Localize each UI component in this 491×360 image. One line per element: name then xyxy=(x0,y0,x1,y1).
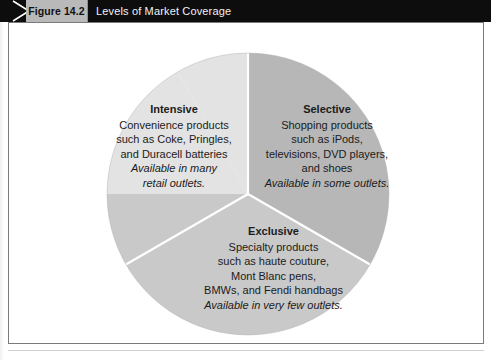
slice-line-selective-2: such as iPods, xyxy=(252,132,402,147)
slice-title-selective: Selective xyxy=(252,102,402,117)
figure-title: Levels of Market Coverage xyxy=(96,0,231,22)
slice-label-intensive: Intensive Convenience products such as C… xyxy=(104,102,244,190)
slice-line-selective-4: and shoes xyxy=(252,161,402,176)
slice-line-selective-1: Shopping products xyxy=(252,118,402,133)
slice-label-selective: Selective Shopping products such as iPod… xyxy=(252,102,402,190)
slice-title-exclusive: Exclusive xyxy=(186,224,361,239)
slice-line-intensive-2: such as Coke, Pringles, xyxy=(104,132,244,147)
slice-line-intensive-1: Convenience products xyxy=(104,118,244,133)
slice-note-selective: Available in some outlets. xyxy=(252,176,402,191)
figure-container: Figure 14.2 Levels of Market Coverage xyxy=(0,0,491,360)
slice-title-intensive: Intensive xyxy=(104,102,244,117)
slice-line-exclusive-3: Mont Blanc pens, xyxy=(186,269,361,284)
scan-edge-artifact xyxy=(0,0,4,360)
figure-header-bar: Figure 14.2 Levels of Market Coverage xyxy=(0,0,491,22)
slice-note-exclusive: Available in very few outlets. xyxy=(186,298,361,313)
slice-note-intensive-1: Available in many xyxy=(104,161,244,176)
slice-note-intensive-2: retail outlets. xyxy=(104,176,244,191)
slice-line-exclusive-2: such as haute couture, xyxy=(186,254,361,269)
slice-label-exclusive: Exclusive Specialty products such as hau… xyxy=(186,224,361,312)
slice-line-intensive-3: and Duracell batteries xyxy=(104,147,244,162)
slice-line-exclusive-1: Specialty products xyxy=(186,240,361,255)
page-baseline-artifact xyxy=(8,350,484,351)
slice-line-selective-3: televisions, DVD players, xyxy=(252,147,402,162)
figure-number-label: Figure 14.2 xyxy=(28,5,85,17)
figure-number-badge: Figure 14.2 xyxy=(26,0,88,22)
slice-line-exclusive-4: BMWs, and Fendi handbags xyxy=(186,283,361,298)
